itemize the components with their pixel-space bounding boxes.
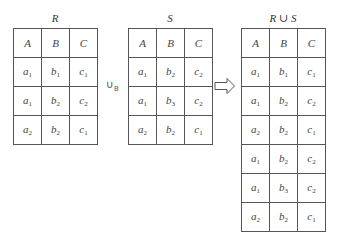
table-cell: a1	[129, 58, 157, 87]
table-cell: c1	[70, 58, 98, 87]
table-row: a1b2c2	[129, 58, 213, 87]
table-row: a1b1c1	[242, 58, 326, 87]
header-row: ABC	[242, 29, 326, 58]
table-cell: b2	[42, 87, 70, 116]
table-row: a1b1c1	[14, 58, 98, 87]
header-cell: A	[14, 29, 42, 58]
table-cell: b3	[270, 174, 298, 203]
table-row: a2b2c1	[242, 116, 326, 145]
table-cell: b1	[42, 58, 70, 87]
table-cell: a2	[14, 116, 42, 145]
union-subscript: B	[114, 85, 119, 93]
table-cell: c1	[298, 203, 326, 232]
table-cell: a2	[242, 203, 270, 232]
union-symbol: ∪	[106, 78, 114, 91]
table-cell: a1	[242, 87, 270, 116]
table-row: a2b2c1	[129, 116, 213, 145]
table-cell: a1	[129, 87, 157, 116]
table-cell: c1	[298, 58, 326, 87]
header-cell: A	[242, 29, 270, 58]
header-cell: A	[129, 29, 157, 58]
table-cell: b2	[157, 58, 185, 87]
result-relation-title: R ∪ S	[241, 12, 325, 25]
relation-s-title: S	[128, 12, 212, 24]
table-row: a1b3c2	[129, 87, 213, 116]
table-row: a1b2c2	[242, 87, 326, 116]
union-operator: ∪B	[106, 78, 119, 93]
table-cell: b2	[42, 116, 70, 145]
table-cell: b2	[270, 203, 298, 232]
header-row: ABC	[129, 29, 213, 58]
table-cell: b2	[157, 116, 185, 145]
table-cell: a2	[242, 116, 270, 145]
table-cell: c1	[185, 116, 213, 145]
relation-r-table: ABCa1b1c1a1b2c2a2b2c1	[13, 28, 98, 145]
table-row: a1b2c2	[14, 87, 98, 116]
table-cell: c2	[185, 87, 213, 116]
relation-s-table: ABCa1b2c2a1b3c2a2b2c1	[128, 28, 213, 145]
table-cell: b2	[270, 145, 298, 174]
table-cell: c1	[70, 116, 98, 145]
table-cell: b1	[270, 58, 298, 87]
table-cell: a1	[14, 58, 42, 87]
relation-r-title: R	[13, 12, 97, 24]
table-row: a1b2c2	[242, 145, 326, 174]
table-cell: a1	[242, 58, 270, 87]
table-cell: a2	[129, 116, 157, 145]
header-cell: C	[185, 29, 213, 58]
table-cell: a1	[242, 145, 270, 174]
table-cell: c2	[70, 87, 98, 116]
table-cell: c2	[298, 174, 326, 203]
hollow-right-arrow-icon	[214, 77, 236, 95]
table-cell: b2	[270, 116, 298, 145]
table-cell: c1	[298, 116, 326, 145]
table-cell: b3	[157, 87, 185, 116]
header-cell: C	[70, 29, 98, 58]
header-cell: C	[298, 29, 326, 58]
table-cell: c2	[298, 145, 326, 174]
header-cell: B	[42, 29, 70, 58]
header-cell: B	[157, 29, 185, 58]
header-row: ABC	[14, 29, 98, 58]
header-cell: B	[270, 29, 298, 58]
table-row: a1b3c2	[242, 174, 326, 203]
table-row: a2b2c1	[14, 116, 98, 145]
table-cell: a1	[14, 87, 42, 116]
table-cell: c2	[298, 87, 326, 116]
table-row: a2b2c1	[242, 203, 326, 232]
table-cell: c2	[185, 58, 213, 87]
result-relation-table: ABCa1b1c1a1b2c2a2b2c1a1b2c2a1b3c2a2b2c1	[241, 28, 326, 232]
table-cell: b2	[270, 87, 298, 116]
table-cell: a1	[242, 174, 270, 203]
